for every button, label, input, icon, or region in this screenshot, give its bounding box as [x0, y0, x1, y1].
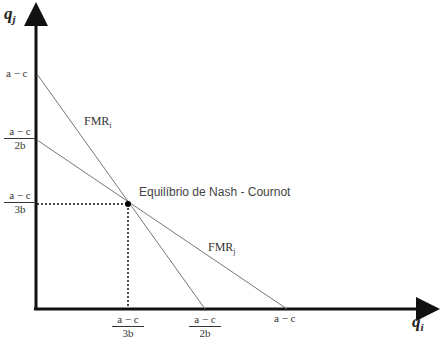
fmr-j-label: FMRj	[208, 240, 236, 256]
x-tick-third: a − c 3b	[112, 313, 144, 340]
y-tick-a-minus-c: a − c	[6, 67, 27, 79]
x-tick-half: a − c 2b	[189, 313, 221, 340]
y-axis-title: qj	[4, 4, 16, 25]
y-tick-half: a − c 2b	[4, 125, 36, 152]
equilibrium-label: Equilíbrio de Nash - Cournot	[139, 185, 290, 199]
fmr-j-line	[37, 140, 287, 309]
diagram-canvas	[0, 0, 441, 342]
x-tick-a-minus-c: a − c	[274, 312, 295, 324]
x-axis-title: qi	[412, 312, 424, 333]
y-tick-third: a − c 3b	[4, 189, 36, 216]
equilibrium-point	[125, 201, 131, 207]
fmr-i-label: FMRi	[84, 114, 112, 130]
